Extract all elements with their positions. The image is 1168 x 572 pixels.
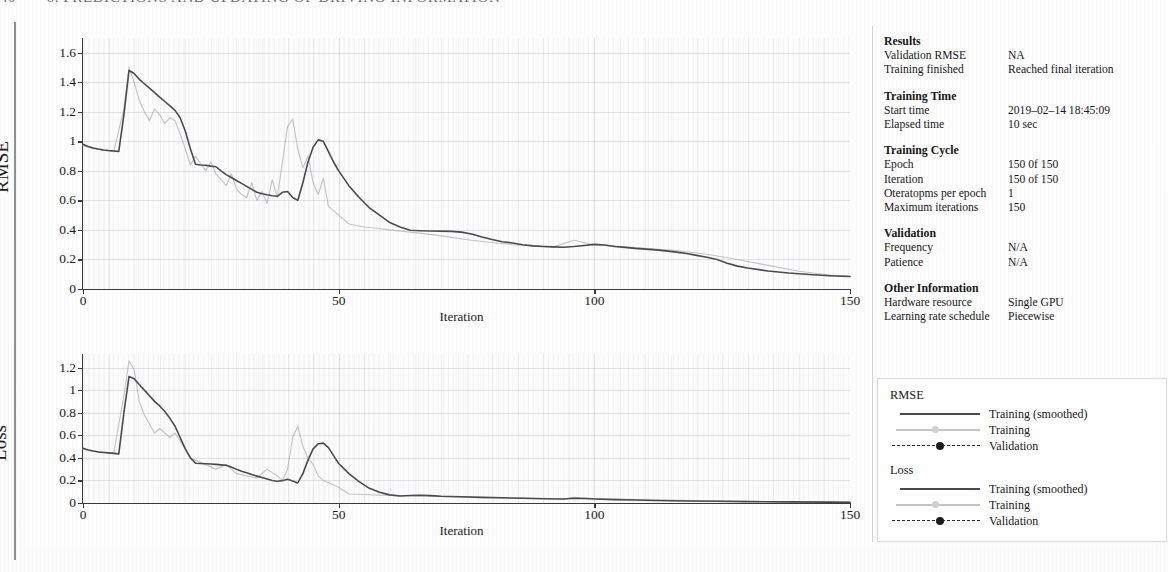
gridline-vertical xyxy=(773,354,774,503)
info-group-title: Results xyxy=(884,34,1154,48)
running-head-title: 6. PREDICTIONS AND UPDATING OF DRIVING I… xyxy=(47,0,501,5)
info-row-key: Iteration xyxy=(884,173,1008,187)
info-row-value: N/A xyxy=(1008,241,1154,255)
gridline-vertical xyxy=(722,38,723,289)
info-row-key: Frequency xyxy=(884,241,1008,255)
gridline-vertical xyxy=(799,354,800,503)
legend-line-sample-light xyxy=(890,423,982,437)
legend-entry-label: Training (smoothed) xyxy=(989,482,1088,497)
x-axis-tick-label: 50 xyxy=(332,293,346,309)
info-group-title: Training Cycle xyxy=(884,143,1154,157)
y-axis-tick-label: 0.2 xyxy=(59,472,76,488)
legend-group: LossTraining (smoothed)TrainingValidatio… xyxy=(890,463,1156,529)
gridline-vertical xyxy=(569,38,570,289)
legend-line-sample-dashed xyxy=(890,514,982,528)
info-row: Epoch150 0f 150 xyxy=(884,158,1154,172)
rmse-x-axis-title: Iteration xyxy=(440,309,484,325)
gridline-vertical xyxy=(339,354,340,503)
y-axis-tick-label: 0 xyxy=(69,281,76,297)
y-axis-tick-mark xyxy=(78,368,83,369)
y-axis-tick-label: 1 xyxy=(69,382,76,398)
gridline-vertical xyxy=(236,354,237,503)
info-row-key: Oteratopms per epoch xyxy=(884,187,1008,201)
gridline-vertical xyxy=(262,38,263,289)
info-row-value: Reached final iteration xyxy=(1008,63,1154,77)
gridline-vertical xyxy=(415,354,416,503)
gridline-vertical xyxy=(645,38,646,289)
gridline-vertical xyxy=(236,38,237,289)
legend-entry[interactable]: Training xyxy=(890,422,1156,438)
rmse-y-axis-title: RMSE xyxy=(0,141,13,193)
legend-entry[interactable]: Validation xyxy=(890,513,1156,529)
legend-group: RMSETraining (smoothed)TrainingValidatio… xyxy=(890,388,1156,454)
y-axis-tick-label: 0.4 xyxy=(59,222,76,238)
gridline-vertical xyxy=(185,38,186,289)
legend-line-sample-light xyxy=(890,498,982,512)
info-row-value: 1 xyxy=(1008,187,1154,201)
legend-entry[interactable]: Training xyxy=(890,497,1156,513)
gridline-vertical xyxy=(824,354,825,503)
y-axis-tick-mark xyxy=(78,259,83,260)
legend-entry-label: Validation xyxy=(989,514,1038,529)
info-row-value: 10 sec xyxy=(1008,118,1154,132)
gridline-vertical xyxy=(109,38,110,289)
y-axis-tick-mark xyxy=(78,171,83,172)
gridline-vertical xyxy=(748,354,749,503)
gridline-vertical xyxy=(722,354,723,503)
x-axis-tick-label: 0 xyxy=(80,293,87,309)
y-axis-tick-label: 0.6 xyxy=(59,192,76,208)
gridline-vertical xyxy=(364,38,365,289)
gridline-vertical xyxy=(671,354,672,503)
gridline-vertical xyxy=(594,38,595,289)
info-row-value: 150 xyxy=(1008,201,1154,215)
panel-divider xyxy=(872,26,873,542)
legend-entry[interactable]: Validation xyxy=(890,438,1156,454)
info-group-title: Validation xyxy=(884,226,1154,240)
gridline-vertical xyxy=(211,38,212,289)
gridline-vertical xyxy=(518,354,519,503)
legend-group-heading: Loss xyxy=(890,463,1156,478)
info-row-value: Piecewise xyxy=(1008,310,1154,324)
gridline-vertical xyxy=(313,354,314,503)
gridline-vertical xyxy=(185,354,186,503)
y-axis-tick-label: 0.8 xyxy=(59,163,76,179)
y-axis-tick-mark xyxy=(78,112,83,113)
legend-entry[interactable]: Training (smoothed) xyxy=(890,481,1156,497)
gridline-vertical xyxy=(160,38,161,289)
gridline-vertical xyxy=(467,354,468,503)
gridline-vertical xyxy=(441,38,442,289)
y-axis-tick-mark xyxy=(78,141,83,142)
legend-entry[interactable]: Training (smoothed) xyxy=(890,406,1156,422)
gridline-vertical xyxy=(773,38,774,289)
info-group-title: Other Information xyxy=(884,281,1154,295)
rmse-plot: RMSE 00.20.40.60.811.21.41.6050100150 It… xyxy=(22,30,862,320)
info-row-value: 2019–02–14 18:45:09 xyxy=(1008,104,1154,118)
y-axis-tick-label: 0.4 xyxy=(59,450,76,466)
y-axis-tick-mark xyxy=(78,200,83,201)
gridline-vertical xyxy=(748,38,749,289)
x-axis-tick-label: 150 xyxy=(840,293,860,309)
gridline-vertical xyxy=(594,354,595,503)
training-progress-figure: RMSE 00.20.40.60.811.21.41.6050100150 It… xyxy=(22,26,1154,550)
info-group: Other InformationHardware resourceSingle… xyxy=(884,281,1154,325)
gridline-vertical xyxy=(134,38,135,289)
gridline-vertical xyxy=(543,354,544,503)
gridline-vertical xyxy=(492,38,493,289)
legend-line-sample-solid xyxy=(890,407,982,421)
gridline-vertical xyxy=(415,38,416,289)
legend-entry-label: Training (smoothed) xyxy=(989,407,1088,422)
gridline-vertical xyxy=(288,38,289,289)
loss-plot: Loss 00.20.40.60.811.2050100150 Iteratio… xyxy=(22,346,862,542)
info-row-value: 150 0f 150 xyxy=(1008,158,1154,172)
gridline-vertical xyxy=(697,38,698,289)
y-axis-tick-mark xyxy=(78,230,83,231)
info-row-key: Epoch xyxy=(884,158,1008,172)
training-info-panel: ResultsValidation RMSENATraining finishe… xyxy=(884,34,1154,335)
legend-entry-label: Training xyxy=(989,498,1030,513)
x-axis-tick-label: 150 xyxy=(840,507,860,523)
loss-plot-area: 00.20.40.60.811.2050100150 xyxy=(82,354,850,504)
legend-line-sample-solid xyxy=(890,482,982,496)
info-group: ValidationFrequencyN/APatienceN/A xyxy=(884,226,1154,270)
x-axis-tick-label: 100 xyxy=(584,293,604,309)
y-axis-tick-mark xyxy=(78,82,83,83)
